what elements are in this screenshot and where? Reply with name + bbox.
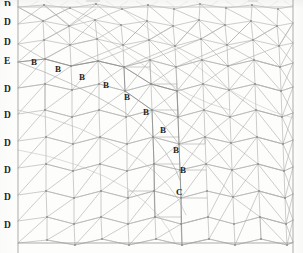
row-label-d-2: D bbox=[4, 38, 11, 48]
interface-label-c-9: C bbox=[176, 188, 183, 197]
row-label-d-5: D bbox=[4, 111, 11, 121]
row-label-d-9: D bbox=[4, 221, 11, 231]
interface-label-b-4: B bbox=[124, 93, 130, 102]
interface-label-b-0: B bbox=[31, 58, 37, 67]
row-label-d-6: D bbox=[4, 139, 11, 149]
mesh-edges bbox=[18, 4, 293, 245]
interface-label-b-1: B bbox=[55, 65, 61, 74]
row-label-d-1: D bbox=[4, 18, 11, 28]
row-label-e-3: E bbox=[4, 57, 10, 67]
row-label-d-8: D bbox=[4, 193, 11, 203]
interface-label-b-6: B bbox=[160, 126, 166, 135]
row-label-d-7: D bbox=[4, 166, 11, 176]
row-label-d-0: D bbox=[4, 1, 11, 6]
row-label-d-4: D bbox=[4, 85, 11, 95]
mesh-svg bbox=[0, 0, 303, 253]
interface-label-b-3: B bbox=[103, 81, 109, 90]
interface-label-b-8: B bbox=[180, 166, 186, 175]
interface-label-b-2: B bbox=[79, 73, 85, 82]
mesh-figure: DDDEDDDDDD BBBBBBBBBC bbox=[0, 0, 303, 253]
interface-label-b-7: B bbox=[173, 146, 179, 155]
interface-label-b-5: B bbox=[143, 108, 149, 117]
